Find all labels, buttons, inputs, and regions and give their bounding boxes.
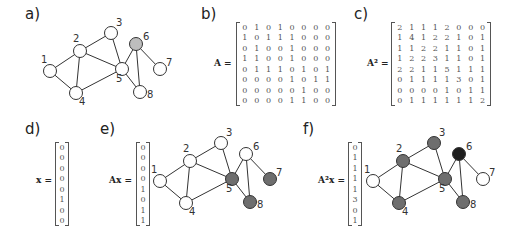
graph-drawings: 12345678 12345678 12345678 xyxy=(0,0,521,234)
graph-node-6 xyxy=(240,148,253,161)
node-label: 7 xyxy=(166,57,172,68)
graph-node-6 xyxy=(130,38,143,51)
node-label: 8 xyxy=(147,89,153,100)
node-label: 1 xyxy=(41,54,47,65)
graph-node-8 xyxy=(244,196,257,209)
graph-node-1 xyxy=(44,65,57,78)
graph-edge xyxy=(246,154,250,202)
node-label: 6 xyxy=(143,31,149,42)
graph-node-7 xyxy=(154,63,167,76)
graph-node-3 xyxy=(428,137,441,150)
node-label: 1 xyxy=(151,164,157,175)
graph-node-3 xyxy=(215,137,228,150)
graph-node-3 xyxy=(105,27,118,40)
node-label: 5 xyxy=(116,73,122,84)
node-label: 4 xyxy=(402,206,408,217)
graph-node-1 xyxy=(367,175,380,188)
node-label: 7 xyxy=(276,167,282,178)
node-label: 5 xyxy=(439,183,445,194)
node-label: 6 xyxy=(253,141,259,152)
node-label: 8 xyxy=(257,199,263,210)
node-label: 2 xyxy=(396,143,402,154)
node-label: 3 xyxy=(226,127,232,138)
node-label: 4 xyxy=(189,206,195,217)
graph-node-7 xyxy=(477,173,490,186)
graph-node-1 xyxy=(154,175,167,188)
node-label: 5 xyxy=(226,183,232,194)
graph-edge xyxy=(459,154,463,202)
node-label: 3 xyxy=(116,17,122,28)
node-label: 4 xyxy=(79,96,85,107)
graph-e: 12345678 xyxy=(151,127,282,217)
node-label: 1 xyxy=(364,164,370,175)
graph-node-2 xyxy=(184,155,197,168)
graph-node-2 xyxy=(74,45,87,58)
graph-a: 12345678 xyxy=(41,17,172,107)
graph-node-7 xyxy=(264,173,277,186)
node-label: 2 xyxy=(73,33,79,44)
graph-f: 12345678 xyxy=(364,127,495,217)
graph-node-6 xyxy=(453,148,466,161)
node-label: 7 xyxy=(489,167,495,178)
graph-node-8 xyxy=(457,196,470,209)
graph-node-2 xyxy=(397,155,410,168)
node-label: 2 xyxy=(183,143,189,154)
node-label: 3 xyxy=(439,127,445,138)
node-label: 8 xyxy=(470,199,476,210)
graph-edge xyxy=(136,44,140,92)
graph-node-8 xyxy=(134,86,147,99)
node-label: 6 xyxy=(466,141,472,152)
